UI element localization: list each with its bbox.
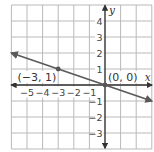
- y-tick-label: −3: [88, 128, 102, 139]
- point-marker: [56, 67, 61, 72]
- coordinate-graph: (−3, 1)(0, 0) −5−4−3−2−14321−1−2−3 x y: [0, 0, 154, 152]
- y-tick-label: 3: [96, 32, 102, 43]
- x-tick-label: −4: [36, 87, 50, 98]
- y-tick-label: 4: [96, 16, 102, 27]
- point-marker: [103, 83, 108, 88]
- x-axis-label: x: [145, 71, 151, 83]
- x-tick-label: −3: [51, 87, 65, 98]
- y-tick-label: −2: [88, 112, 102, 123]
- y-tick-label: 1: [96, 64, 102, 75]
- point-label: (0, 0): [108, 71, 138, 84]
- y-tick-label: 2: [96, 48, 102, 59]
- point-label: (−3, 1): [17, 71, 56, 84]
- y-axis-label: y: [108, 4, 116, 16]
- x-tick-label: −5: [20, 87, 34, 98]
- x-tick-label: −2: [67, 87, 81, 98]
- y-tick-label: −1: [88, 96, 102, 107]
